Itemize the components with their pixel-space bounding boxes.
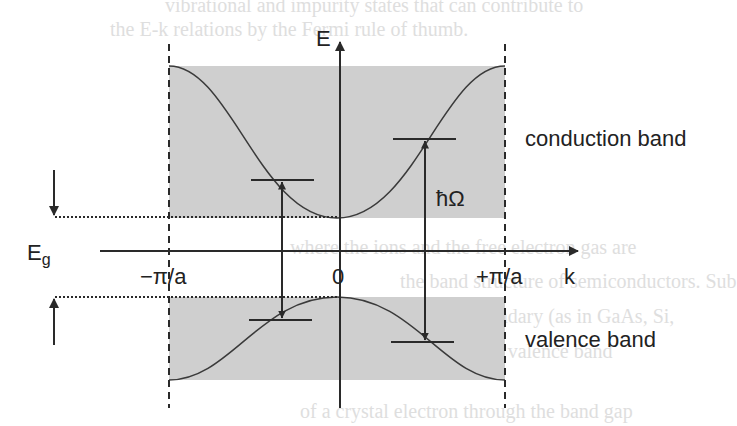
photon-energy-label: ħΩ [436,186,465,212]
valence-band-region [169,297,505,380]
band-gap-subscript: g [42,251,51,268]
conduction-band-label: conduction band [525,126,686,152]
valence-band-label: valence band [525,327,656,353]
tick-label-minus-pi-over-a: −π/a [140,264,186,290]
tick-label-plus-pi-over-a: +π/a [476,264,522,290]
band-gap-label: Eg [27,240,51,269]
energy-axis-label: E [316,26,331,52]
tick-label-zero: 0 [332,264,344,290]
band-gap-symbol: E [27,240,42,265]
k-axis-label: k [564,264,575,290]
